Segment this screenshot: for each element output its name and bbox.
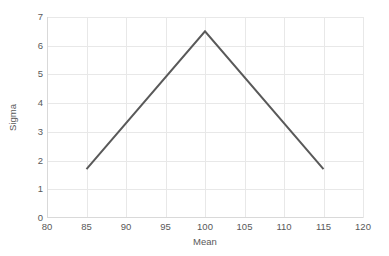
y-axis-title: Sigma — [4, 0, 20, 235]
x-axis-tick-label: 85 — [67, 221, 107, 232]
x-axis-title: Mean — [47, 236, 363, 247]
y-axis-title-label: Sigma — [7, 104, 18, 131]
x-axis-tick-labels: 80859095100105110115120 — [47, 221, 363, 235]
x-axis-tick-label: 95 — [146, 221, 186, 232]
x-axis-tick-label: 90 — [106, 221, 146, 232]
data-series-layer — [47, 17, 363, 218]
x-axis-tick-label: 105 — [225, 221, 265, 232]
chart-container: 01234567 Sigma 80859095100105110115120 M… — [0, 0, 389, 256]
x-axis-tick-label: 100 — [185, 221, 225, 232]
x-axis-tick-label: 110 — [264, 221, 304, 232]
series-line-sigma — [87, 31, 324, 169]
x-axis-tick-label: 80 — [27, 221, 67, 232]
x-axis-tick-label: 120 — [343, 221, 383, 232]
plot-area — [47, 17, 363, 218]
x-axis-tick-label: 115 — [304, 221, 344, 232]
gridline-vertical — [363, 17, 364, 218]
x-axis-title-label: Mean — [193, 236, 217, 247]
